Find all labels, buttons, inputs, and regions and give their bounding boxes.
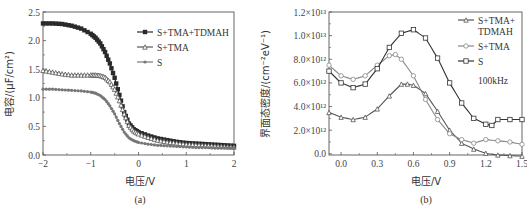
data-point xyxy=(363,82,367,86)
legend-item: S+TMA+TDMAH xyxy=(137,28,229,38)
chart-a-capacitance: 0.00.51.01.52.02.5 −2−1012 S+TMA+TDMAHS+… xyxy=(3,8,237,207)
data-point xyxy=(110,107,113,110)
x-tick-label: 2 xyxy=(232,159,237,169)
data-point xyxy=(387,54,391,58)
x-axis-title-b: 电压/V xyxy=(411,175,441,187)
data-point xyxy=(472,116,476,120)
legend-item: S+TMA xyxy=(137,43,189,53)
y-tick-label: 1.5 xyxy=(28,65,40,75)
data-point xyxy=(140,141,143,144)
data-point xyxy=(484,122,488,126)
data-point xyxy=(351,117,355,121)
x-tick-label: 0.6 xyxy=(408,159,420,169)
legend-label: S+TMA+TDMAH xyxy=(157,28,229,38)
data-point xyxy=(496,153,500,157)
data-point xyxy=(223,147,226,150)
data-point xyxy=(447,81,451,85)
data-point xyxy=(435,117,439,121)
legend-label: S xyxy=(478,57,483,67)
data-point xyxy=(484,137,488,141)
data-point xyxy=(508,140,512,144)
series-s-tma-tdmah xyxy=(327,82,524,158)
data-point xyxy=(201,146,204,149)
data-point xyxy=(54,88,57,91)
data-point xyxy=(86,90,89,93)
data-point xyxy=(73,89,76,92)
data-point xyxy=(351,77,355,81)
data-point xyxy=(108,104,111,107)
data-point xyxy=(143,60,146,63)
data-point xyxy=(213,147,216,150)
x-tick-label: 0.0 xyxy=(335,159,347,169)
data-point xyxy=(111,110,114,113)
data-point xyxy=(178,145,181,148)
data-point xyxy=(393,52,397,56)
data-point xyxy=(327,110,331,114)
data-point xyxy=(496,139,500,143)
data-point xyxy=(51,88,54,91)
data-point xyxy=(112,76,116,80)
data-point xyxy=(194,146,197,149)
data-point xyxy=(484,151,488,155)
data-point xyxy=(204,146,207,149)
x-tick-label: 0.3 xyxy=(371,159,383,169)
data-point xyxy=(109,66,113,70)
series-s xyxy=(41,88,235,150)
data-point xyxy=(464,44,468,48)
data-point xyxy=(114,81,118,85)
data-point xyxy=(210,146,213,149)
legend-label: S+TMA+ xyxy=(478,16,515,26)
data-point xyxy=(197,146,200,149)
data-point xyxy=(339,81,343,85)
data-point xyxy=(490,123,494,127)
data-point xyxy=(191,146,194,149)
y-axis-title-a: 电容/(μF/cm²) xyxy=(3,51,15,117)
legend-b: S+TMA+TDMAHS+TMAS xyxy=(458,16,515,67)
data-point xyxy=(76,89,79,92)
data-point xyxy=(459,101,463,105)
data-point xyxy=(172,145,175,148)
y-tick-label: 1.2×10¹³ xyxy=(294,8,327,18)
x-tick-label: −1 xyxy=(86,159,96,169)
data-point xyxy=(111,71,115,75)
data-point xyxy=(181,145,184,148)
x-tick-label: 1 xyxy=(184,159,189,169)
series-line xyxy=(43,89,234,148)
y-axis-title-b: 界面态密度/(cm⁻²eV⁻¹) xyxy=(259,30,271,138)
data-point xyxy=(472,147,476,151)
data-point xyxy=(162,144,165,147)
data-point xyxy=(339,115,343,119)
data-point xyxy=(146,143,149,146)
data-point xyxy=(435,56,439,60)
data-point xyxy=(103,50,107,54)
data-point xyxy=(405,82,409,86)
data-point xyxy=(363,74,367,78)
y-tick-label: 6.0×10¹² xyxy=(294,78,327,88)
data-point xyxy=(232,147,235,150)
y-tick-label: 0.0 xyxy=(314,149,326,159)
y-tick-label: 0.5 xyxy=(28,122,40,132)
data-point xyxy=(150,143,153,146)
legend-item: S xyxy=(137,58,162,68)
data-point xyxy=(464,18,468,22)
x-tick-label: 0.9 xyxy=(444,159,456,169)
data-point xyxy=(159,144,162,147)
series-s-tma xyxy=(327,52,524,146)
x-tick-label: 1.2 xyxy=(480,159,492,169)
frequency-annotation: 100kHz xyxy=(478,76,508,86)
legend-a: S+TMA+TDMAHS+TMAS xyxy=(137,28,229,68)
data-point xyxy=(226,147,229,150)
data-point xyxy=(520,117,524,121)
data-point xyxy=(104,54,108,58)
data-point xyxy=(387,45,391,49)
y-tick-label: 2.0 xyxy=(28,36,40,46)
data-point xyxy=(115,115,118,118)
data-point xyxy=(447,132,451,136)
data-point xyxy=(188,146,191,149)
data-point xyxy=(327,63,331,67)
data-point xyxy=(169,144,172,147)
data-point xyxy=(137,141,140,144)
data-point xyxy=(121,128,124,131)
chart-b-interface-state-density: 0.02.0×10¹²4.0×10¹²6.0×10¹²8.0×10¹²1.0×1… xyxy=(259,8,527,207)
legend-item: S+TMA xyxy=(458,42,510,52)
